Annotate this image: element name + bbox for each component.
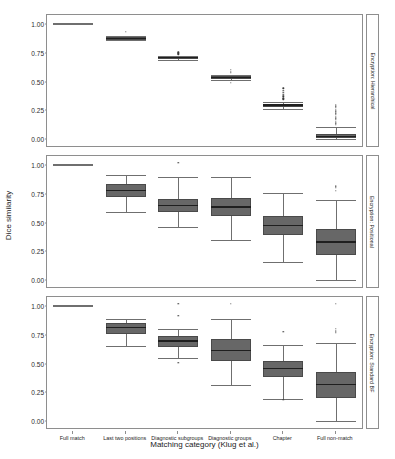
y-tick-mark [45, 165, 48, 166]
panel-strip-label: Encryption: Standard BF [366, 296, 379, 429]
y-tick-label: 0.75 [31, 49, 44, 56]
plot-area: 0.000.250.500.751.00 [47, 15, 362, 146]
whisker-lower [126, 334, 127, 346]
outlier-point [335, 332, 336, 333]
whisker-cap-upper [158, 177, 198, 178]
whisker-cap-lower [211, 385, 251, 386]
x-tick-mark [230, 431, 231, 434]
panel-strip-text: Encryption: Standard BF [370, 333, 376, 392]
y-tick-label: 1.00 [31, 303, 44, 310]
whisker-cap-lower [106, 212, 146, 213]
outlier-point [230, 72, 231, 73]
whisker-cap-lower [316, 280, 356, 281]
whisker-cap-upper [316, 343, 356, 344]
median-line [263, 225, 303, 226]
box-degenerate [53, 305, 93, 306]
whisker-upper [231, 319, 232, 339]
box-degenerate [53, 23, 93, 24]
outlier-point [335, 124, 336, 125]
whisker-cap-upper [263, 102, 303, 103]
y-tick-label: 0.00 [31, 418, 44, 425]
y-tick-label: 0.25 [31, 248, 44, 255]
y-tick-label: 1.00 [31, 21, 44, 28]
y-tick-mark [45, 193, 48, 194]
y-tick-label: 0.75 [31, 331, 44, 338]
outlier-point [335, 190, 336, 191]
whisker-lower [336, 398, 337, 421]
median-line [158, 340, 198, 341]
median-line [316, 241, 356, 242]
whisker-upper [283, 193, 284, 217]
y-axis-title: Dice similarity [2, 0, 16, 430]
y-tick-label: 0.25 [31, 389, 44, 396]
whisker-cap-lower [106, 346, 146, 347]
whisker-upper [231, 177, 232, 198]
whisker-upper [178, 329, 179, 336]
chart-panel: 0.000.250.500.751.00 [46, 155, 363, 288]
whisker-lower [126, 197, 127, 213]
y-tick-mark [45, 363, 48, 364]
whisker-upper [283, 345, 284, 361]
median-line [106, 327, 146, 328]
y-tick-label: 0.00 [31, 277, 44, 284]
whisker-cap-upper [106, 319, 146, 320]
whisker-cap-upper [211, 319, 251, 320]
y-tick-label: 1.00 [31, 162, 44, 169]
outlier-point [178, 162, 179, 163]
panel-strip-label: Encryption: Positional [366, 155, 379, 288]
whisker-cap-lower [158, 358, 198, 359]
y-tick-label: 0.50 [31, 360, 44, 367]
box-degenerate [53, 164, 93, 165]
boxplot-figure: Dice similarity 0.000.250.500.751.00Encr… [0, 0, 395, 459]
y-tick-label: 0.00 [31, 136, 44, 143]
whisker-cap-lower [106, 40, 146, 41]
whisker-cap-upper [158, 329, 198, 330]
x-tick-mark [72, 431, 73, 434]
median-line [316, 136, 356, 137]
whisker-lower [283, 377, 284, 399]
outlier-point [230, 82, 231, 83]
whisker-upper [178, 177, 179, 199]
median-line [263, 104, 303, 105]
x-tick-mark [125, 431, 126, 434]
outlier-point [283, 90, 284, 91]
plot-area: 0.000.250.500.751.00 [47, 156, 362, 287]
whisker-cap-lower [211, 240, 251, 241]
y-tick-mark [45, 306, 48, 307]
whisker-cap-lower [158, 227, 198, 228]
outlier-point [283, 88, 284, 89]
y-tick-mark [45, 280, 48, 281]
outlier-point [178, 315, 179, 316]
whisker-lower [231, 216, 232, 240]
outlier-point [283, 99, 284, 100]
chart-panel: 0.000.250.500.751.00 [46, 296, 363, 429]
x-tick-mark [335, 431, 336, 434]
box [106, 323, 146, 335]
outlier-point [178, 362, 179, 363]
panel-strip-label: Encryption: Hierarchical [366, 14, 379, 147]
whisker-cap-upper [263, 193, 303, 194]
y-tick-mark [45, 110, 48, 111]
median-line [211, 206, 251, 207]
outlier-point [335, 303, 336, 304]
y-tick-label: 0.50 [31, 78, 44, 85]
y-tick-label: 0.25 [31, 107, 44, 114]
y-tick-mark [45, 251, 48, 252]
whisker-upper [336, 127, 337, 134]
whisker-cap-lower [211, 80, 251, 81]
x-tick-mark [177, 431, 178, 434]
median-line [263, 368, 303, 369]
whisker-lower [336, 255, 337, 280]
panel-strip-text: Encryption: Hierarchical [370, 52, 376, 109]
whisker-lower [283, 235, 284, 263]
whisker-lower [178, 212, 179, 228]
whisker-lower [231, 361, 232, 385]
y-tick-mark [45, 81, 48, 82]
median-line [211, 77, 251, 78]
whisker-cap-lower [316, 421, 356, 422]
whisker-cap-upper [316, 127, 356, 128]
whisker-lower [178, 347, 179, 359]
whisker-cap-lower [158, 60, 198, 61]
y-tick-mark [45, 52, 48, 53]
whisker-upper [126, 175, 127, 184]
